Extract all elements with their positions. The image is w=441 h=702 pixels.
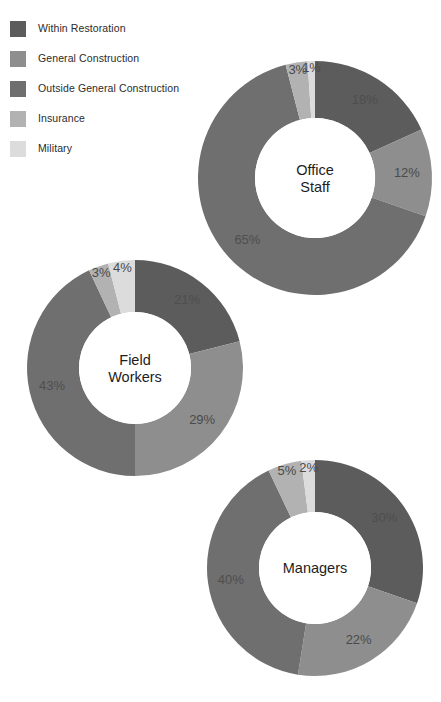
- legend-swatch-insurance: [10, 111, 26, 127]
- legend-item-insurance: Insurance: [10, 104, 220, 134]
- donut-center-title-office-staff-line-1: Staff: [300, 179, 331, 195]
- legend-item-general-construction: General Construction: [10, 44, 220, 74]
- legend-label-outside-general-construction: Outside General Construction: [38, 83, 179, 95]
- slice-value-office-staff-4: 1%: [302, 60, 321, 75]
- slice-value-office-staff-1: 12%: [394, 165, 420, 180]
- slice-value-managers-0: 30%: [371, 510, 397, 525]
- donut-center-title-field-workers-line-1: Workers: [108, 369, 162, 385]
- donut-field-workers: 21%29%43%3%4%FieldWorkers: [25, 258, 245, 478]
- legend-item-military: Military: [10, 134, 220, 164]
- legend-swatch-general-construction: [10, 51, 26, 67]
- slice-value-field-workers-4: 4%: [113, 260, 132, 275]
- donut-managers: 30%22%40%5%2%Managers: [205, 458, 425, 678]
- legend-label-military: Military: [38, 143, 72, 155]
- slice-value-managers-1: 22%: [346, 632, 372, 647]
- legend-item-within-restoration: Within Restoration: [10, 14, 220, 44]
- donut-chart-figure: Within Restoration General Construction …: [0, 0, 441, 702]
- slice-value-field-workers-2: 43%: [39, 378, 65, 393]
- legend-label-insurance: Insurance: [38, 113, 85, 125]
- legend-swatch-within-restoration: [10, 21, 26, 37]
- slice-value-managers-3: 5%: [277, 463, 296, 478]
- slice-value-field-workers-1: 29%: [189, 412, 215, 427]
- slice-value-office-staff-2: 65%: [234, 232, 260, 247]
- legend-item-outside-general-construction: Outside General Construction: [10, 74, 220, 104]
- legend-label-within-restoration: Within Restoration: [38, 23, 126, 35]
- legend-swatch-outside-general-construction: [10, 81, 26, 97]
- slice-value-field-workers-3: 3%: [92, 265, 111, 280]
- slice-value-field-workers-0: 21%: [174, 292, 200, 307]
- slice-value-managers-4: 2%: [299, 460, 318, 475]
- donut-center-title-managers-line-0: Managers: [283, 560, 347, 576]
- donut-center-title-office-staff-line-0: Office: [296, 162, 334, 178]
- chart-legend: Within Restoration General Construction …: [10, 14, 220, 164]
- legend-swatch-military: [10, 141, 26, 157]
- slice-value-managers-2: 40%: [218, 572, 244, 587]
- legend-label-general-construction: General Construction: [38, 53, 139, 65]
- slice-value-office-staff-0: 18%: [352, 92, 378, 107]
- donut-center-title-field-workers-line-0: Field: [119, 352, 150, 368]
